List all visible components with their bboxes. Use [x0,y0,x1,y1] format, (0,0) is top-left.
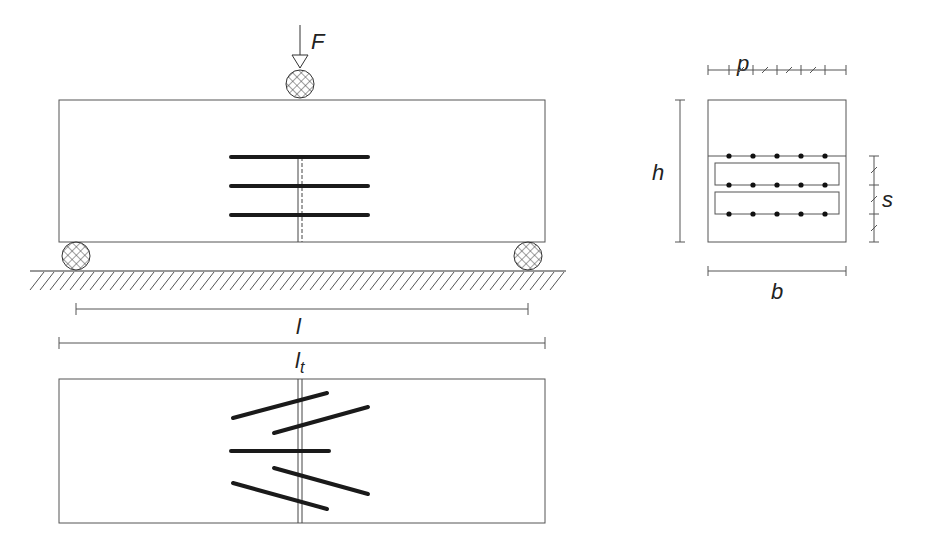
total-length-label: lt [295,348,305,376]
inclined-bar-4 [233,483,327,509]
stirrup-2 [715,192,839,214]
vertical-spacing-dimension [869,156,879,242]
force-arrow-icon [292,25,308,68]
span-dimension [76,303,528,315]
ground-hatch-icon [30,271,566,290]
inclined-bar-2 [274,407,368,433]
cross-section-view: p h [652,51,893,304]
left-support-roller-icon [62,242,90,270]
force-label: F [311,29,326,54]
height-label: h [652,160,664,185]
inclined-bar-1 [233,393,327,418]
span-label: l [296,314,302,339]
load-roller-icon [286,70,314,98]
beam-test-diagram: F [0,0,926,556]
width-dimension [708,266,846,276]
plan-view [59,379,545,523]
inclined-bar-3 [274,468,368,494]
lateral-spacing-label: p [736,51,749,76]
lateral-spacing-dimension [708,65,846,75]
vertical-spacing-label: s [882,187,893,212]
stirrup-1 [715,163,839,185]
crack-line [298,157,302,242]
total-length-dimension [59,337,545,349]
width-label: b [771,279,783,304]
height-dimension [675,100,685,242]
elevation-view: F [30,25,566,376]
section-outline [708,100,846,242]
right-support-roller-icon [514,242,542,270]
